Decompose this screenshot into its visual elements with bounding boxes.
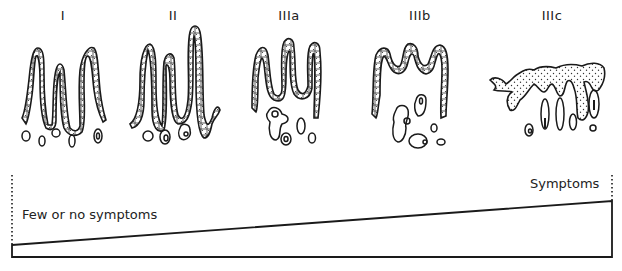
stage-iiic-villi (490, 63, 605, 136)
stage-ii-villi (130, 26, 220, 144)
stage-iiia-villi (252, 39, 321, 145)
marsh-diagram: I II IIIa IIIb IIIc (0, 0, 622, 271)
symptoms-label: Symptoms (530, 176, 599, 191)
stage-iiib-villi (372, 44, 448, 148)
stage-i-villi (22, 48, 106, 147)
illustration-canvas (0, 0, 622, 271)
few-symptoms-label: Few or no symptoms (22, 207, 157, 222)
